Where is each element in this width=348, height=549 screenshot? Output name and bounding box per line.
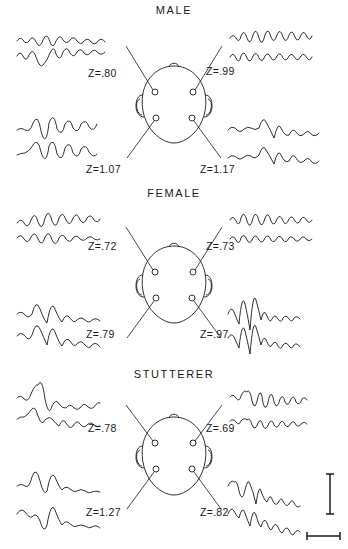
z-label-male-bottom-left: Z=1.07 (86, 163, 121, 175)
trace-group-male-top-right (230, 31, 312, 61)
z-label-male-top-left: Z=.80 (88, 67, 117, 79)
trace-group-stutterer-bottom-right (228, 481, 300, 535)
head-diagram-stutterer (136, 414, 212, 495)
panel-title-stutterer: STUTTERER (0, 368, 348, 380)
panel-stutterer-graphics (0, 364, 348, 549)
z-label-female-top-right: Z=.73 (206, 240, 235, 252)
panel-female-graphics (0, 183, 348, 364)
panel-male: MALE (0, 0, 348, 183)
z-label-male-bottom-right: Z=1.17 (200, 163, 235, 175)
trace-group-male-bottom-right (228, 120, 319, 164)
trace-group-stutterer-bottom-left (17, 472, 100, 529)
trace-group-stutterer-top-left (17, 382, 100, 427)
z-label-stutterer-bottom-right: Z=.82 (200, 506, 229, 518)
z-label-female-bottom-right: Z=.97 (200, 328, 229, 340)
panel-male-graphics (0, 0, 348, 183)
z-label-female-top-left: Z=.72 (88, 240, 117, 252)
panel-title-female: FEMALE (0, 187, 348, 199)
trace-group-female-bottom-left (17, 305, 100, 348)
z-label-stutterer-bottom-left: Z=1.27 (86, 506, 121, 518)
trace-group-male-top-left (17, 36, 105, 66)
z-label-stutterer-top-left: Z=.78 (88, 422, 117, 434)
trace-group-stutterer-top-right (230, 391, 307, 428)
trace-group-female-top-left (17, 213, 100, 243)
calibration-bars (307, 474, 340, 540)
trace-group-male-bottom-left (17, 118, 97, 159)
panel-female: FEMALE (0, 183, 348, 364)
leader-lines-stutterer (126, 405, 222, 509)
panel-stutterer: STUTTERER (0, 364, 348, 549)
eeg-figure: MALE (0, 0, 348, 549)
trace-group-female-top-right (230, 214, 312, 242)
z-label-male-top-right: Z=.99 (206, 65, 235, 77)
head-diagram-female (136, 243, 212, 323)
head-diagram-male (136, 63, 212, 143)
z-label-stutterer-top-right: Z=.69 (206, 422, 235, 434)
z-label-female-bottom-left: Z=.79 (86, 328, 115, 340)
trace-group-female-bottom-right (228, 298, 300, 354)
panel-title-male: MALE (0, 4, 348, 16)
